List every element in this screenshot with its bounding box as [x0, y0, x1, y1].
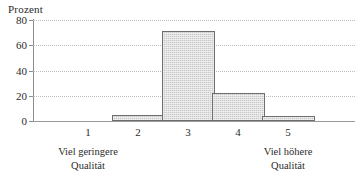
- y-tick-mark: [29, 20, 33, 21]
- bar: [112, 115, 165, 121]
- bar: [262, 116, 315, 121]
- y-tick-label: 40: [16, 65, 27, 77]
- annotation-line-2: Qualität: [264, 159, 313, 173]
- x-tick-label: 1: [85, 126, 91, 138]
- annotation-line-2: Qualität: [58, 159, 118, 173]
- plot-area: 020406080: [33, 20, 355, 121]
- x-tick-label: 3: [185, 126, 191, 138]
- y-tick-label: 80: [16, 14, 27, 26]
- y-tick-label: 0: [22, 115, 28, 127]
- y-tick-label: 60: [16, 39, 27, 51]
- y-tick-mark: [29, 45, 33, 46]
- y-tick-mark: [29, 96, 33, 97]
- chart-figure: Prozent 020406080 12345 Viel geringereQu…: [0, 0, 363, 182]
- annotation-line-1: Viel höhere: [264, 145, 313, 159]
- y-tick-mark: [29, 121, 33, 122]
- y-tick-label: 20: [16, 90, 27, 102]
- axis-annotation: Viel geringereQualität: [58, 145, 118, 173]
- bar: [212, 93, 265, 121]
- x-tick-label: 4: [235, 126, 241, 138]
- annotation-line-1: Viel geringere: [58, 145, 118, 159]
- bar: [162, 31, 215, 121]
- x-tick-label: 2: [135, 126, 141, 138]
- gridline: [33, 20, 355, 21]
- axis-annotation: Viel höhereQualität: [264, 145, 313, 173]
- x-tick-label: 5: [285, 126, 291, 138]
- y-tick-mark: [29, 71, 33, 72]
- x-axis-line: [33, 121, 355, 122]
